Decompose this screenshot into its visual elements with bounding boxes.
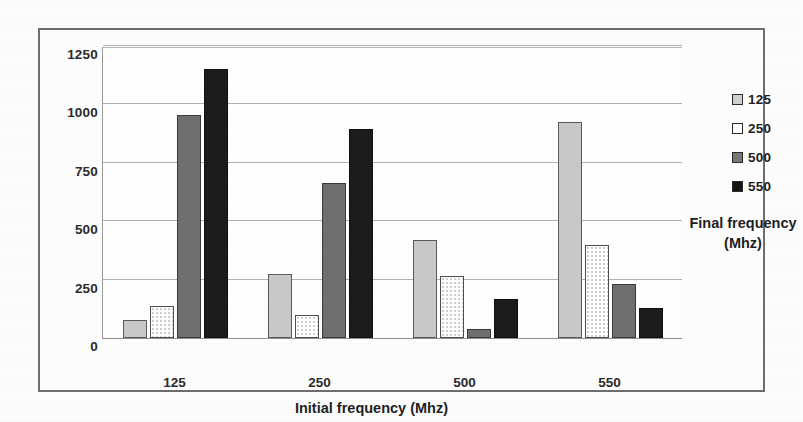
bar-125-250 bbox=[150, 306, 174, 338]
legend-swatch-125-icon bbox=[732, 94, 743, 105]
plot-area bbox=[102, 47, 682, 339]
y-axis-tick-labels: 025050075010001250 bbox=[40, 47, 98, 339]
legend-item-250[interactable]: 250 bbox=[732, 121, 803, 136]
legend-item-500[interactable]: 500 bbox=[732, 150, 803, 165]
bar-550-125 bbox=[558, 122, 582, 338]
bar-500-125 bbox=[413, 240, 437, 338]
legend-swatch-500-icon bbox=[732, 152, 743, 163]
legend-swatch-250-icon bbox=[732, 123, 743, 134]
legend-title-line1: Final frequency bbox=[668, 213, 803, 233]
bar-group-250 bbox=[268, 48, 373, 338]
legend-label-250: 250 bbox=[748, 121, 771, 136]
x-axis-tick-550: 550 bbox=[598, 375, 621, 390]
legend-label-550: 550 bbox=[748, 179, 771, 194]
legend-title: Final frequency (Mhz) bbox=[668, 213, 803, 253]
bar-125-125 bbox=[123, 320, 147, 338]
bar-550-500 bbox=[612, 284, 636, 338]
legend-item-125[interactable]: 125 bbox=[732, 92, 803, 107]
chart-frame: Esc(μJ) 025050075010001250 Initial frequ… bbox=[38, 28, 765, 392]
bar-550-550 bbox=[639, 308, 663, 338]
bar-125-500 bbox=[177, 115, 201, 338]
bar-500-550 bbox=[494, 299, 518, 338]
scanned-page: Esc(μJ) 025050075010001250 Initial frequ… bbox=[0, 0, 803, 422]
bar-group-550 bbox=[558, 48, 663, 338]
x-axis-title-text: Initial frequency (Mhz) bbox=[295, 400, 448, 416]
gridline bbox=[103, 45, 682, 46]
x-axis-title: Initial frequency (Mhz) bbox=[40, 400, 763, 416]
x-axis-tick-125: 125 bbox=[163, 375, 186, 390]
bar-group-125 bbox=[123, 48, 228, 338]
x-axis-tick-500: 500 bbox=[453, 375, 476, 390]
legend-swatch-550-icon bbox=[732, 181, 743, 192]
bar-250-125 bbox=[268, 274, 292, 338]
legend-item-550[interactable]: 550 bbox=[732, 179, 803, 194]
bar-group-500 bbox=[413, 48, 518, 338]
bar-250-250 bbox=[295, 315, 319, 338]
legend: 125250500550 bbox=[732, 92, 803, 208]
bar-500-500 bbox=[467, 329, 491, 338]
bar-550-250 bbox=[585, 245, 609, 338]
legend-label-125: 125 bbox=[748, 92, 771, 107]
bar-250-500 bbox=[322, 183, 346, 338]
legend-title-line2: (Mhz) bbox=[668, 233, 803, 253]
bar-250-550 bbox=[349, 129, 373, 338]
x-axis-tick-250: 250 bbox=[308, 375, 331, 390]
bar-125-550 bbox=[204, 69, 228, 338]
legend-label-500: 500 bbox=[748, 150, 771, 165]
bar-500-250 bbox=[440, 276, 464, 338]
